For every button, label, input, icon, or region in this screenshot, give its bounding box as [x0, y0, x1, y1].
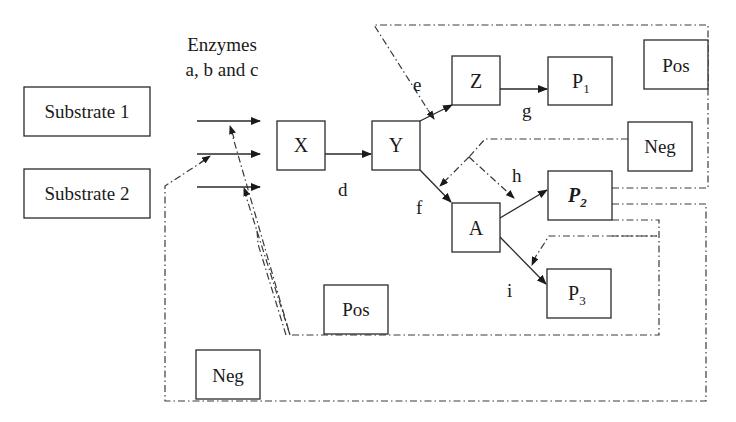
node-neg-bottom: Neg — [196, 350, 260, 399]
node-substrate-1: Substrate 1 — [24, 87, 150, 136]
z-label: Z — [470, 70, 482, 92]
edge-label-i: i — [507, 280, 512, 301]
neg-feedback-line-right — [469, 139, 628, 157]
substrate-1-label: Substrate 1 — [45, 101, 130, 122]
node-substrate-2: Substrate 2 — [24, 169, 150, 218]
metabolic-regulation-diagram: Substrate 1 Substrate 2 X Y Z P1 Pos Neg… — [0, 0, 736, 422]
node-a: A — [452, 203, 500, 252]
pos-arrow-to-enzyme-a — [230, 126, 234, 138]
edge-label-h: h — [512, 165, 522, 186]
arrow-to-i — [532, 256, 536, 265]
feedback-line-to-i — [536, 236, 657, 256]
x-label: X — [294, 134, 309, 156]
edge-a-to-p3 — [500, 237, 546, 284]
edge-a-to-p2 — [500, 190, 547, 218]
node-y: Y — [372, 121, 420, 170]
neg-arrow-to-enzyme-b — [200, 156, 210, 163]
a-label: A — [469, 217, 484, 239]
edge-y-to-z — [420, 105, 452, 121]
enzymes-label: Enzymes — [187, 34, 257, 55]
y-label: Y — [389, 134, 403, 156]
node-neg-right: Neg — [628, 122, 692, 171]
node-pos-bottom: Pos — [324, 285, 388, 334]
node-x: X — [277, 121, 325, 170]
pos-top-label: Pos — [662, 55, 689, 76]
pos-bottom-label: Pos — [342, 299, 369, 320]
substrate-2-label: Substrate 2 — [45, 183, 130, 204]
neg-right-label: Neg — [644, 136, 676, 157]
node-z: Z — [452, 56, 500, 105]
edge-label-f: f — [416, 197, 423, 218]
pos-feedback-line-bottom-2 — [244, 190, 290, 335]
neg-arrow-to-f — [440, 157, 469, 186]
edge-y-to-a — [420, 170, 451, 202]
enzymes-list-label: a, b and c — [186, 59, 259, 80]
node-pos-top: Pos — [644, 40, 708, 89]
edge-label-e: e — [413, 74, 421, 95]
neg-bottom-label: Neg — [212, 365, 244, 386]
edge-label-g: g — [522, 100, 532, 121]
node-p1: P1 — [548, 57, 612, 105]
node-p2: P2 — [548, 171, 612, 220]
edge-label-d: d — [338, 179, 348, 200]
neg-arrow-to-h — [469, 157, 514, 198]
node-p3: P3 — [547, 269, 611, 318]
